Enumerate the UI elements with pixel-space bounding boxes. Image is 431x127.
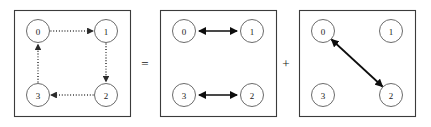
- node-1: 1: [380, 20, 403, 43]
- node-2-label: 2: [250, 91, 255, 101]
- node-2: 2: [95, 84, 118, 107]
- node-1: 1: [95, 20, 118, 43]
- panel-cycle: 0 1 3 2: [15, 11, 131, 117]
- panel-diagonal: 0 1 3 2: [300, 11, 416, 117]
- node-3-label: 3: [182, 91, 187, 101]
- node-2: 2: [380, 84, 403, 107]
- node-0: 0: [27, 20, 50, 43]
- equals-operator: =: [141, 56, 148, 71]
- node-3: 3: [27, 84, 50, 107]
- panel-horizontal-pairs: 0 1 3 2: [161, 11, 277, 117]
- node-0-label: 0: [36, 27, 41, 37]
- node-1-label: 1: [104, 27, 109, 37]
- node-3: 3: [173, 84, 196, 107]
- node-2-label: 2: [104, 91, 109, 101]
- node-0: 0: [173, 20, 196, 43]
- graph-decomposition-figure: 0 1 3 2 = 0: [0, 0, 431, 127]
- node-0-label: 0: [321, 27, 326, 37]
- node-2: 2: [241, 84, 264, 107]
- node-0-label: 0: [182, 27, 187, 37]
- node-1-label: 1: [250, 27, 255, 37]
- plus-operator: +: [282, 56, 289, 71]
- node-3-label: 3: [36, 91, 41, 101]
- node-3: 3: [312, 84, 335, 107]
- node-1: 1: [241, 20, 264, 43]
- figure-canvas: 0 1 3 2 = 0: [0, 0, 431, 127]
- node-2-label: 2: [389, 91, 394, 101]
- node-0: 0: [312, 20, 335, 43]
- node-1-label: 1: [389, 27, 394, 37]
- node-3-label: 3: [321, 91, 326, 101]
